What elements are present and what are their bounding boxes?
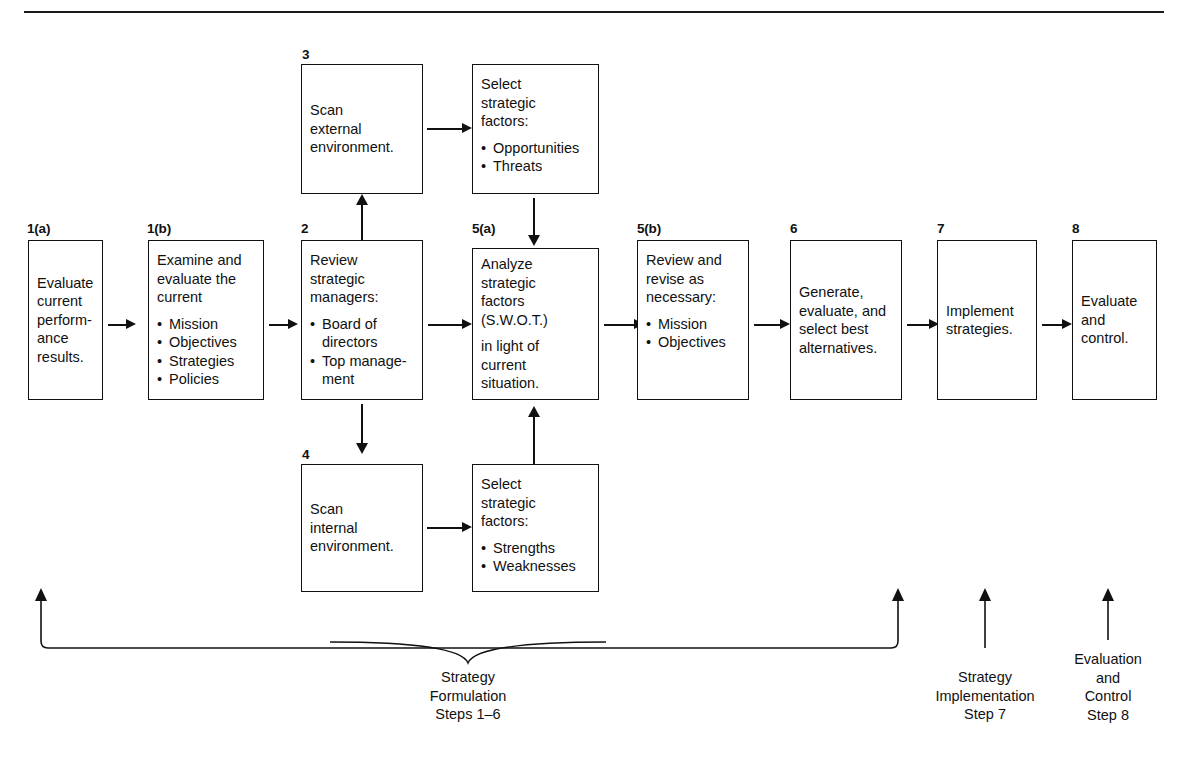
- box-select-external-text: Select strategic factors:: [481, 75, 590, 131]
- arrowhead-1a-to-1b: [126, 319, 136, 329]
- bullet-objectives: Objectives: [157, 333, 255, 352]
- box-7-content: Implement strategies.: [938, 241, 1036, 399]
- step-label-1b: 1(b): [147, 222, 171, 236]
- arrowhead-4-to-select-internal: [462, 522, 472, 532]
- box-5b-content: Review and revise as necessary: Mission …: [638, 241, 748, 399]
- box-select-external-content: Select strategic factors: Opportunities …: [473, 65, 598, 193]
- box-1a-content: Evaluate current perform- ance results.: [29, 241, 102, 399]
- box-7-text: Implement strategies.: [946, 302, 1028, 339]
- box-1b-text: Examine and evaluate the current: [157, 251, 255, 307]
- arrowhead-1b-to-2: [288, 319, 298, 329]
- step-label-4: 4: [302, 448, 309, 462]
- box-select-external-bullets: Opportunities Threats: [481, 139, 590, 176]
- box-select-internal-content: Select strategic factors: Strengths Weak…: [473, 465, 598, 591]
- box-implement-strategies[interactable]: Implement strategies.: [937, 240, 1037, 400]
- box-2-content: Review strategic managers: Board of dire…: [302, 241, 422, 399]
- arrowhead-2-to-3: [356, 194, 368, 205]
- connector-1a-to-1b: [108, 324, 128, 326]
- box-scan-external-environment-text: Scan external environment.: [310, 101, 414, 157]
- box-scan-external-environment[interactable]: Scan external environment.: [301, 64, 423, 194]
- box-review-revise-as-necessary[interactable]: Review and revise as necessary: Mission …: [637, 240, 749, 400]
- bullet-threats: Threats: [481, 157, 590, 176]
- spacer: [481, 531, 590, 539]
- connector-5b-to-6: [754, 324, 782, 326]
- step-label-8: 8: [1072, 222, 1079, 236]
- box-evaluate-current-performance[interactable]: Evaluate current perform- ance results.: [28, 240, 103, 400]
- spacer: [157, 307, 255, 315]
- connector-select-external-to-5a: [533, 198, 535, 238]
- connector-3-to-select-external: [427, 128, 464, 130]
- connector-select-internal-to-5a: [533, 415, 535, 465]
- box-scan-internal-environment-text: Scan internal environment.: [310, 500, 414, 556]
- connector-7-to-8: [1042, 324, 1064, 326]
- bullet-policies: Policies: [157, 370, 255, 389]
- spacer: [310, 307, 414, 315]
- step-label-1a: 1(a): [27, 222, 50, 236]
- box-5a-text2: in light of current situation.: [481, 337, 590, 393]
- connector-6-to-7: [907, 324, 931, 326]
- caption-strategy-formulation: Strategy Formulation Steps 1–6: [368, 668, 568, 724]
- diagram-canvas: 3 Scan external environment. Select stra…: [0, 0, 1182, 769]
- box-1b-bullets: Mission Objectives Strategies Policies: [157, 315, 255, 389]
- bullet-weaknesses: Weaknesses: [481, 557, 590, 576]
- step-label-5a: 5(a): [472, 222, 495, 236]
- pointer-arrow-strategy-implementation: [979, 588, 991, 601]
- arrowhead-select-internal-to-5a: [528, 406, 540, 417]
- box-scan-internal-environment[interactable]: Scan internal environment.: [301, 464, 423, 592]
- box-5b-text: Review and revise as necessary:: [646, 251, 740, 307]
- box-generate-evaluate-select-alternatives[interactable]: Generate, evaluate, and select best alte…: [790, 240, 902, 400]
- box-2-bullets: Board of directors Top manage- ment: [310, 315, 414, 389]
- brace-strategy-formulation: [330, 642, 606, 663]
- arrowhead-2-to-5a: [462, 319, 472, 329]
- box-select-strategic-factors-external[interactable]: Select strategic factors: Opportunities …: [472, 64, 599, 194]
- box-5b-bullets: Mission Objectives: [646, 315, 740, 352]
- pointer-arrow-evaluation-control: [1102, 588, 1114, 601]
- box-6-content: Generate, evaluate, and select best alte…: [791, 241, 901, 399]
- bullet-objectives: Objectives: [646, 333, 740, 352]
- box-8-content: Evaluate and control.: [1073, 241, 1156, 399]
- box-select-internal-bullets: Strengths Weaknesses: [481, 539, 590, 576]
- connector-4-to-select-internal: [427, 527, 464, 529]
- box-1b-content: Examine and evaluate the current Mission…: [149, 241, 263, 399]
- arrowhead-2-to-4: [356, 443, 368, 454]
- bullet-strategies: Strategies: [157, 352, 255, 371]
- spacer: [481, 329, 590, 337]
- box-2-text: Review strategic managers:: [310, 251, 414, 307]
- bullet-top-management: Top manage- ment: [310, 352, 414, 389]
- box-select-internal-text: Select strategic factors:: [481, 475, 590, 531]
- arrowhead-7-to-8: [1062, 319, 1072, 329]
- feedback-loop-path: [41, 598, 898, 648]
- caption-evaluation-and-control: Evaluation and Control Step 8: [1048, 650, 1168, 724]
- box-review-strategic-managers[interactable]: Review strategic managers: Board of dire…: [301, 240, 423, 400]
- bullet-mission: Mission: [646, 315, 740, 334]
- box-evaluate-and-control[interactable]: Evaluate and control.: [1072, 240, 1157, 400]
- box-5a-content: Analyze strategic factors (S.W.O.T.) in …: [473, 249, 598, 399]
- bullet-opportunities: Opportunities: [481, 139, 590, 158]
- arrowhead-select-external-to-5a: [528, 235, 540, 246]
- step-label-5b: 5(b): [637, 222, 661, 236]
- connector-2-to-4: [361, 404, 363, 446]
- box-scan-external-environment-content: Scan external environment.: [302, 65, 422, 193]
- arrowhead-5b-to-6: [780, 319, 790, 329]
- box-scan-internal-environment-content: Scan internal environment.: [302, 465, 422, 591]
- bullet-board-of-directors: Board of directors: [310, 315, 414, 352]
- box-analyze-strategic-factors-swot[interactable]: Analyze strategic factors (S.W.O.T.) in …: [472, 248, 599, 400]
- box-1a-text: Evaluate current perform- ance results.: [37, 274, 94, 367]
- arrowhead-3-to-select-external: [462, 123, 472, 133]
- box-examine-evaluate-current[interactable]: Examine and evaluate the current Mission…: [148, 240, 264, 400]
- box-8-text: Evaluate and control.: [1081, 292, 1148, 348]
- bullet-strengths: Strengths: [481, 539, 590, 558]
- step-label-3: 3: [302, 48, 309, 62]
- spacer: [481, 131, 590, 139]
- step-label-7: 7: [937, 222, 944, 236]
- connector-5a-to-5b: [604, 324, 636, 326]
- spacer: [646, 307, 740, 315]
- feedback-loop-arrowhead-right: [892, 588, 904, 601]
- bullet-mission: Mission: [157, 315, 255, 334]
- box-select-strategic-factors-internal[interactable]: Select strategic factors: Strengths Weak…: [472, 464, 599, 592]
- header-rule: [24, 11, 1164, 13]
- connector-2-to-5a: [428, 324, 464, 326]
- caption-strategy-implementation: Strategy Implementation Step 7: [905, 668, 1065, 724]
- box-6-text: Generate, evaluate, and select best alte…: [799, 283, 893, 357]
- step-label-2: 2: [301, 222, 308, 236]
